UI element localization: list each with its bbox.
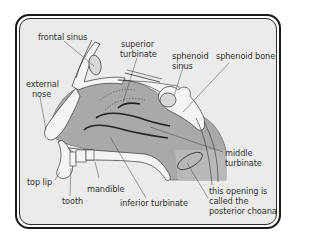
label-posterior-choana-line3: posterior choana bbox=[209, 206, 277, 216]
label-inferior-turbinate: inferior turbinate bbox=[120, 198, 188, 208]
label-external-nose-line2: nose bbox=[32, 89, 51, 99]
label-posterior-choana-line2: called the bbox=[209, 196, 248, 206]
label-superior-turbinate-line1: superior bbox=[121, 39, 154, 49]
label-superior-turbinate-line2: turbinate bbox=[120, 49, 157, 59]
label-sphenoid-sinus-line1: sphenoid bbox=[172, 51, 209, 61]
sphenoid-sinus-shape bbox=[160, 93, 176, 107]
label-sphenoid-bone: sphenoid bone bbox=[216, 51, 275, 61]
label-frontal-sinus: frontal sinus bbox=[38, 32, 87, 42]
tooth-shape bbox=[70, 152, 76, 166]
label-tooth: tooth bbox=[62, 196, 83, 206]
label-posterior-choana-line1: this opening is bbox=[209, 186, 267, 196]
posterior-choana-region bbox=[175, 150, 226, 180]
label-sphenoid-sinus-line2: sinus bbox=[172, 61, 193, 71]
label-top-lip: top lip bbox=[27, 177, 52, 187]
label-external-nose-line1: external bbox=[26, 79, 59, 89]
label-mandible: mandible bbox=[87, 184, 124, 194]
label-middle-turbinate-line2: turbinate bbox=[225, 158, 262, 168]
label-middle-turbinate-line1: middle bbox=[225, 148, 252, 158]
